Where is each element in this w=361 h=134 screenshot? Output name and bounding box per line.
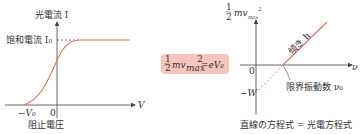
eq-rhs: =eV₀ <box>201 60 224 70</box>
svg-text:2: 2 <box>226 12 232 22</box>
voltage-axis-label: V <box>138 100 146 110</box>
photoelectric-diagram: 光電流 I 饱和電流 I₀ V −V₀ 0 阻止電圧 1 2 mv max 2 … <box>0 0 361 134</box>
nu-axis-label: ν <box>352 62 358 72</box>
work-function-label: −W <box>240 88 258 98</box>
equation-caption: 直線の方程式 = 光電方程式 <box>240 119 352 130</box>
origin-label: 0 <box>50 108 56 118</box>
photocurrent-label: 光電流 I <box>35 9 69 20</box>
svg-text:1: 1 <box>226 2 232 12</box>
threshold-pointer <box>283 66 290 80</box>
equation: 1 2 mv max 2 =eV₀ <box>164 54 224 73</box>
extrapolated-line <box>256 65 283 93</box>
energy-axis-label: mvmax2 <box>234 6 261 20</box>
left-graph: 光電流 I 饱和電流 I₀ V −V₀ 0 阻止電圧 <box>5 9 146 130</box>
iv-curve <box>24 40 130 105</box>
stop-voltage-label: −V₀ <box>18 108 36 118</box>
right-origin-label: 0 <box>249 66 255 76</box>
slope-label: 傾き h <box>286 30 313 57</box>
svg-text:2: 2 <box>165 63 171 73</box>
threshold-frequency-label: 限界振動数 ν₀ <box>286 81 343 92</box>
right-graph: 1 2 mvmax2 ν 0 −W 傾き h 限界振動数 ν₀ 直線の方程式 =… <box>225 2 358 130</box>
eq-body: mv <box>172 60 186 70</box>
stopping-voltage-caption: 阻止電圧 <box>28 119 64 130</box>
saturation-current-label: 饱和電流 I₀ <box>6 34 52 45</box>
